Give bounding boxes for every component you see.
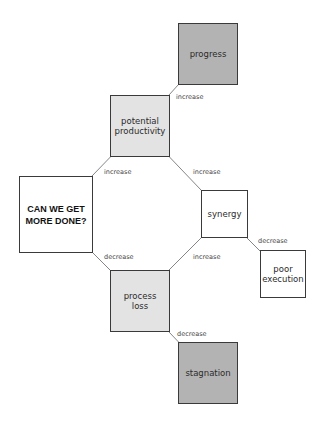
- node-label: stagnation: [185, 368, 230, 378]
- node-poor-execution: poorexecution: [260, 250, 306, 298]
- node-label: progress: [190, 49, 227, 59]
- edge-label: decrease: [104, 253, 134, 261]
- edge-label: decrease: [258, 237, 288, 245]
- node-progress: progress: [178, 23, 238, 85]
- node-root-question: CAN WE GETMORE DONE?: [19, 176, 93, 253]
- node-label-line1: potential: [115, 116, 166, 126]
- node-label-line2: execution: [262, 274, 303, 284]
- node-label: synergy: [208, 209, 242, 219]
- node-label-line1: CAN WE GET: [25, 203, 86, 215]
- node-label-line1: process: [124, 291, 157, 301]
- edge-label: decrease: [177, 330, 207, 338]
- node-synergy: synergy: [201, 190, 248, 238]
- node-label-line2: loss: [124, 301, 157, 311]
- node-label-line2: productivity: [115, 126, 166, 136]
- node-process-loss: processloss: [110, 270, 170, 332]
- edge-label: increase: [193, 253, 220, 261]
- node-potential-productivity: potentialproductivity: [110, 95, 170, 157]
- edge-label: increase: [176, 93, 203, 101]
- edge-label: increase: [104, 168, 131, 176]
- node-label-line1: poor: [262, 264, 303, 274]
- node-label-line2: MORE DONE?: [25, 215, 86, 227]
- node-stagnation: stagnation: [178, 342, 238, 404]
- edge-label: increase: [193, 168, 220, 176]
